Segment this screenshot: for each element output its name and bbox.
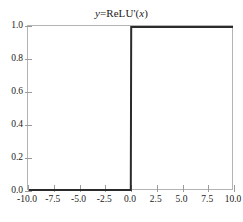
title-function: =ReLU'( [100, 7, 139, 19]
y-tick-label: 0.8 [0, 53, 23, 63]
x-tick-label: 10.0 [213, 194, 243, 204]
chart-title: y=ReLU'(x) [0, 7, 243, 20]
y-tick-label: 0.4 [0, 119, 23, 129]
title-paren-close: ) [144, 7, 148, 19]
chart-figure: y=ReLU'(x) 0.00.20.40.60.81.0 -10.0-7.5-… [0, 0, 243, 222]
y-tick-label: 1.0 [0, 20, 23, 30]
y-tick-label: 0.2 [0, 152, 23, 162]
y-tick-label: 0.6 [0, 86, 23, 96]
data-series-relu-derivative [28, 26, 234, 191]
step-line [29, 27, 233, 190]
plot-area [27, 25, 233, 190]
x-tick-mark [234, 185, 235, 192]
